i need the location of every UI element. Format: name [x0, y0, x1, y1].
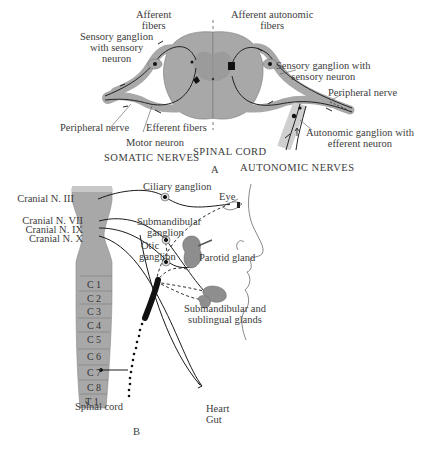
- label-autonomic-nerves: AUTONOMIC NERVES: [240, 162, 355, 173]
- segment-c8: C 8: [74, 382, 114, 393]
- text: Sensory ganglion with: [276, 60, 371, 71]
- label-somatic-nerves: SOMATIC NERVES: [104, 152, 200, 163]
- label-efferent-fibers: Efferent fibers: [146, 122, 207, 133]
- label-cranial-n-iii: Cranial N. III: [10, 193, 74, 204]
- label-ciliary-ganglion: Ciliary ganglion: [143, 181, 212, 192]
- segment-c6: C 6: [74, 351, 114, 362]
- text: Submandibular: [137, 216, 201, 227]
- text: efferent neuron: [306, 138, 414, 149]
- label-spinal-cord: SPINAL CORD: [193, 146, 267, 157]
- label-heart-gut: Heart Gut: [206, 403, 229, 425]
- segment-c5: C 5: [74, 334, 114, 345]
- label-sensory-ganglion-left: Sensory ganglion with sensory neuron: [80, 31, 153, 64]
- label-motor-neuron: Motor neuron: [126, 137, 184, 148]
- label-peripheral-nerve-right: Peripheral nerve: [328, 87, 397, 98]
- text: Sensory ganglion: [80, 31, 153, 42]
- segment-c2: C 2: [74, 293, 114, 304]
- label-cranial-n-x: Cranial N. X: [10, 233, 83, 244]
- segment-c3: C 3: [74, 306, 114, 317]
- segment-c7: C 7: [74, 367, 114, 378]
- label-peripheral-nerve-left: Peripheral nerve: [60, 122, 129, 133]
- spinal-cord-cross-section: [163, 20, 263, 130]
- label-spinal-cord-b: Spinal cord: [75, 401, 123, 412]
- label-salivary-glands: Submandibular and sublingual glands: [184, 303, 266, 325]
- text: Afferent autonomic: [231, 9, 313, 20]
- text: Afferent: [136, 9, 171, 20]
- label-otic-ganglion: Otic ganglion: [141, 240, 176, 262]
- text: fibers: [231, 20, 313, 31]
- text: ganglion: [139, 251, 176, 262]
- label-eye: Eye: [219, 191, 235, 202]
- text: sublingual glands: [184, 314, 266, 325]
- text: Heart: [206, 403, 229, 414]
- text: Autonomic ganglion with: [306, 127, 414, 138]
- segment-c4: C 4: [74, 320, 114, 331]
- text: sensory neuron: [276, 71, 371, 82]
- text: with sensory: [80, 42, 153, 53]
- text: Gut: [206, 414, 229, 425]
- label-autonomic-ganglion: Autonomic ganglion with efferent neuron: [306, 127, 414, 149]
- text: neuron: [80, 53, 153, 64]
- label-afferent-autonomic-fibers: Afferent autonomic fibers: [231, 9, 313, 31]
- label-parotid-gland: Parotid gland: [199, 252, 255, 263]
- text: Submandibular and: [184, 303, 266, 314]
- panel-label-a: A: [211, 164, 219, 175]
- segment-c1: C 1: [74, 279, 114, 290]
- text: fibers: [136, 20, 171, 31]
- nervous-system-figure: Afferent fibers Sensory ganglion with se…: [0, 0, 430, 449]
- text: Otic: [141, 240, 176, 251]
- panel-label-b: B: [133, 426, 140, 437]
- label-sensory-ganglion-right: Sensory ganglion with sensory neuron: [276, 60, 371, 82]
- label-submandibular-ganglion: Submandibular ganglion: [137, 216, 201, 238]
- label-afferent-fibers: Afferent fibers: [136, 9, 171, 31]
- text: ganglion: [137, 227, 201, 238]
- sympathetic-chain: [128, 280, 158, 397]
